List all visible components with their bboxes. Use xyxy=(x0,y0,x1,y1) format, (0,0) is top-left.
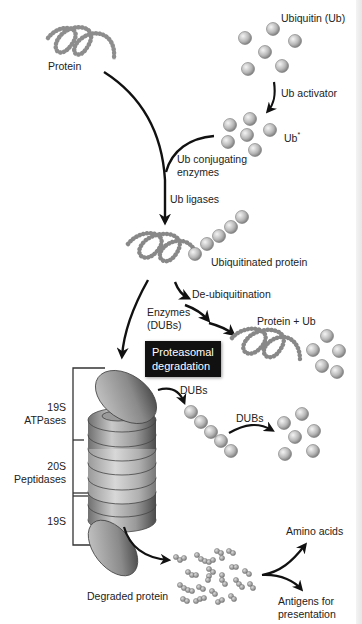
label-protein-plus-ub: Protein + Ub xyxy=(257,315,316,328)
label-protein: Protein xyxy=(48,60,81,73)
label-enzymes-dubs: Enzymes(DUBs) xyxy=(147,306,190,332)
label-dubs-2: DUBs xyxy=(236,412,263,425)
activated-ubiquitin-balls xyxy=(222,113,277,157)
released-ubiquitin-balls xyxy=(307,330,346,379)
label-ub-ligases: Ub ligases xyxy=(170,193,219,206)
diagram-canvas: Protein Ubiquitin (Ub) Ub activator Ub* … xyxy=(0,0,362,624)
label-19s-atpases: 19SATPases xyxy=(10,401,66,427)
label-degraded-protein: Degraded protein xyxy=(87,590,168,603)
label-ub-activator: Ub activator xyxy=(281,87,337,100)
label-dubs-1: DUBs xyxy=(180,384,207,397)
label-ubiquitin: Ubiquitin (Ub) xyxy=(281,12,345,25)
label-ub-star: Ub* xyxy=(284,128,300,145)
label-antigens: Antigens forpresentation xyxy=(278,595,336,621)
label-proteasomal-degradation: Proteasomaldegradation xyxy=(145,341,221,377)
label-ub-conjugating: Ub conjugatingenzymes xyxy=(177,153,247,179)
ubiquitin-balls xyxy=(239,23,302,76)
released-protein-icon xyxy=(232,329,300,360)
label-20s-peptidases: 20SPeptidases xyxy=(6,460,66,486)
degraded-protein-fragments xyxy=(173,548,255,604)
proteasome-icon xyxy=(78,359,166,584)
ubiquitinated-protein-icon xyxy=(128,211,249,262)
label-19s-bottom: 19S xyxy=(10,515,66,528)
label-de-ubiquitination: De-ubiquitination xyxy=(192,288,271,301)
free-ubiquitin-balls xyxy=(278,408,321,461)
label-ubiquitinated-protein: Ubiquitinated protein xyxy=(211,256,307,269)
label-amino-acids: Amino acids xyxy=(286,525,343,538)
page-edge xyxy=(356,0,362,624)
